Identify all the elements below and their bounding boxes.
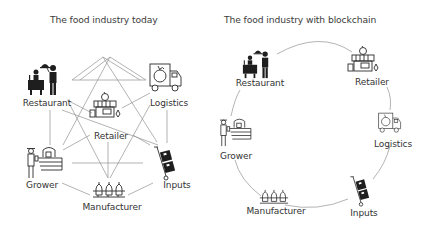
storefront-icon [89,92,123,118]
storefront-icon [347,44,381,74]
farmer-field-icon [218,117,252,147]
restaurant-waiter-icon [240,47,276,79]
node-label-restaurant: Restaurant [236,78,284,88]
delivery-truck-apple-icon [378,110,402,136]
factory-bottles-icon [92,181,126,199]
delivery-truck-apple-icon [149,63,183,93]
diagram-title-blockchain: The food industry with blockchain [224,14,376,25]
restaurant-waiter-icon [27,60,63,96]
factory-bottles-icon [259,189,289,205]
node-label-manufacturer: Manufacturer [82,202,141,212]
node-label-retailer: Retailer [355,77,389,87]
node-label-inputs: Inputs [350,208,377,218]
node-label-manufacturer: Manufacturer [246,206,305,216]
node-label-grower: Grower [26,180,58,190]
diagram-title-today: The food industry today [50,14,158,25]
node-label-grower: Grower [220,151,252,161]
node-label-logistics: Logistics [374,139,412,149]
hand-truck-boxes-icon [153,145,179,181]
node-label-logistics: Logistics [150,98,188,108]
hand-truck-boxes-icon [349,175,373,207]
farmer-field-icon [25,145,63,179]
node-label-inputs: Inputs [163,180,190,190]
node-label-restaurant: Restaurant [23,98,71,108]
node-label-retailer: Retailer [94,131,128,141]
